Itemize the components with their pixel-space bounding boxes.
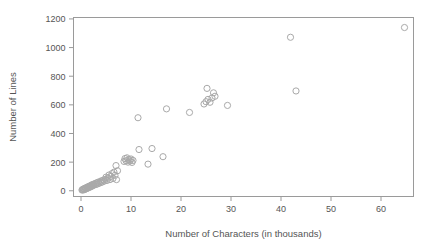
data-point <box>204 85 210 91</box>
plot-frame <box>74 18 414 197</box>
y-axis-title: Number of Lines <box>7 72 18 142</box>
x-axis-title: Number of Characters (in thousands) <box>165 228 321 239</box>
data-point <box>160 154 166 160</box>
data-point <box>224 102 230 108</box>
x-tick-label: 50 <box>326 204 336 214</box>
y-tick-label: 800 <box>50 72 65 82</box>
scatter-plot-canvas: 0102030405060020040060080010001200Number… <box>0 0 429 245</box>
y-tick-label: 0 <box>60 186 65 196</box>
y-tick-label: 200 <box>50 158 65 168</box>
data-point <box>401 24 407 30</box>
y-tick-label: 1200 <box>45 14 65 24</box>
x-tick-label: 20 <box>176 204 186 214</box>
x-tick-label: 60 <box>376 204 386 214</box>
data-point <box>149 145 155 151</box>
x-tick-label: 0 <box>78 204 83 214</box>
y-tick-label: 400 <box>50 129 65 139</box>
data-point <box>136 146 142 152</box>
data-point <box>293 88 299 94</box>
y-tick-label: 1000 <box>45 43 65 53</box>
data-point <box>135 115 141 121</box>
data-point <box>113 177 119 183</box>
x-tick-label: 40 <box>276 204 286 214</box>
data-point <box>145 161 151 167</box>
data-point <box>186 109 192 115</box>
scatter-plot-figure: 0102030405060020040060080010001200Number… <box>0 0 429 245</box>
y-tick-label: 600 <box>50 100 65 110</box>
data-point <box>163 106 169 112</box>
data-points-group <box>79 24 408 193</box>
data-point <box>287 34 293 40</box>
x-tick-label: 10 <box>126 204 136 214</box>
x-tick-label: 30 <box>226 204 236 214</box>
